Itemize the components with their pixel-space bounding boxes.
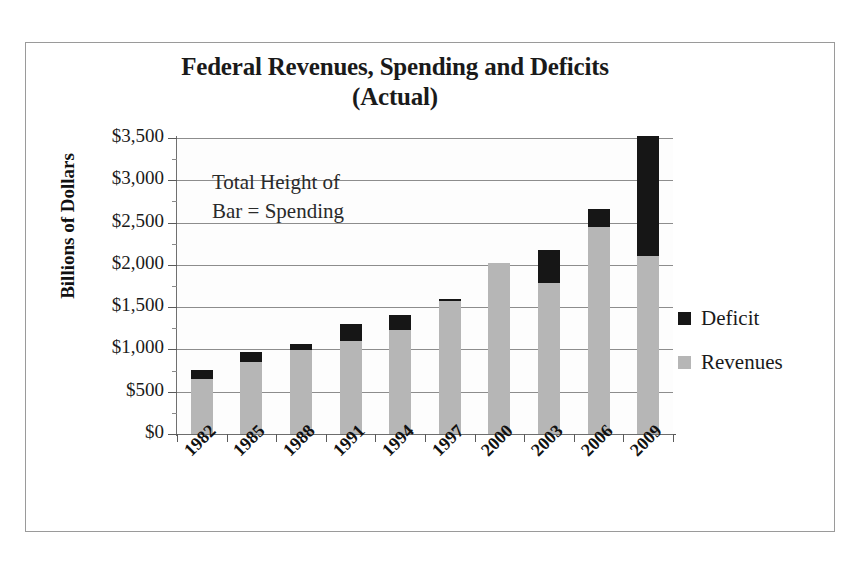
y-axis-tick [168, 265, 177, 266]
bar-group[interactable] [588, 138, 610, 434]
y-axis-tick-label: $3,500 [78, 125, 164, 147]
x-axis-tick [177, 434, 178, 442]
bar-segment-deficit[interactable] [439, 299, 461, 301]
x-axis-tick [475, 434, 476, 442]
chart-title-line-2: (Actual) [110, 82, 680, 112]
y-axis-tick-labels: $3,500$3,000$2,500$2,000$1,500$1,000$500… [72, 0, 164, 566]
y-axis-minor-tick [172, 413, 177, 414]
bar-segment-revenues[interactable] [340, 341, 362, 434]
bar-segment-revenues[interactable] [389, 330, 411, 434]
bar-segment-revenues[interactable] [488, 263, 510, 434]
bar-segment-deficit[interactable] [191, 370, 213, 379]
bar-segment-revenues[interactable] [439, 301, 461, 434]
y-axis-tick-label: $3,000 [78, 167, 164, 189]
chart-legend: DeficitRevenues [678, 296, 818, 384]
y-axis-minor-tick [172, 371, 177, 372]
y-axis-minor-tick [172, 286, 177, 287]
bar-segment-revenues[interactable] [538, 283, 560, 434]
chart-title: Federal Revenues, Spending and Deficits … [110, 52, 680, 112]
bar-group[interactable] [191, 138, 213, 434]
bar-group[interactable] [488, 138, 510, 434]
y-axis-minor-tick [172, 328, 177, 329]
y-axis-tick [168, 307, 177, 308]
bar-segment-revenues[interactable] [290, 350, 312, 434]
y-axis-tick [168, 434, 177, 435]
x-axis-tick [673, 434, 674, 442]
x-axis-tick [375, 434, 376, 442]
y-axis-tick-label: $2,000 [78, 252, 164, 274]
y-axis-tick-label: $1,000 [78, 336, 164, 358]
y-axis-tick [168, 392, 177, 393]
bar-segment-deficit[interactable] [340, 324, 362, 341]
bar-segment-deficit[interactable] [240, 352, 262, 362]
bar-group[interactable] [439, 138, 461, 434]
x-axis-tick [574, 434, 575, 442]
annotation-line-2: Bar = Spending [212, 197, 442, 226]
y-axis-tick [168, 223, 177, 224]
bar-group[interactable] [637, 138, 659, 434]
bar-group[interactable] [538, 138, 560, 434]
bar-segment-deficit[interactable] [588, 209, 610, 226]
bar-segment-revenues[interactable] [588, 227, 610, 434]
legend-swatch-icon [678, 312, 691, 325]
y-axis-tick [168, 349, 177, 350]
x-axis-tick [227, 434, 228, 442]
y-axis-minor-tick [172, 244, 177, 245]
x-axis-tick [425, 434, 426, 442]
bar-segment-deficit[interactable] [637, 136, 659, 256]
bar-segment-deficit[interactable] [538, 250, 560, 283]
bar-segment-deficit[interactable] [389, 315, 411, 330]
y-axis-tick-label: $1,500 [78, 294, 164, 316]
chart-figure: Federal Revenues, Spending and Deficits … [0, 0, 861, 566]
y-axis-tick-label: $0 [78, 421, 164, 443]
y-axis-minor-tick [172, 159, 177, 160]
annotation-line-1: Total Height of [212, 170, 340, 194]
bar-segment-deficit[interactable] [290, 344, 312, 350]
legend-item[interactable]: Deficit [678, 296, 818, 340]
legend-item[interactable]: Revenues [678, 340, 818, 384]
chart-title-line-1: Federal Revenues, Spending and Deficits [181, 53, 609, 80]
x-axis-tick [623, 434, 624, 442]
legend-item-label: Deficit [701, 306, 759, 331]
chart-annotation: Total Height of Bar = Spending [212, 168, 442, 226]
y-axis-tick-label: $500 [78, 379, 164, 401]
y-axis-minor-tick [172, 201, 177, 202]
x-axis-tick [276, 434, 277, 442]
bar-segment-revenues[interactable] [637, 256, 659, 434]
y-axis-tick [168, 138, 177, 139]
x-axis-tick [524, 434, 525, 442]
x-axis-tick [326, 434, 327, 442]
legend-swatch-icon [678, 356, 691, 369]
y-axis-tick-label: $2,500 [78, 210, 164, 232]
legend-item-label: Revenues [701, 350, 783, 375]
y-axis-tick [168, 180, 177, 181]
